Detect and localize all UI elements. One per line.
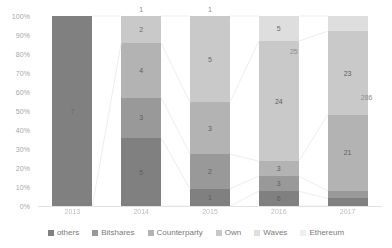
stacked-bar-chart: 100%90%80%70%60%50%40%30%20%10%0% 724351… [0,0,392,248]
bar-segment-label: 23 [344,70,352,77]
bar-segment-label: 3 [208,125,212,132]
y-axis-tick-label: 20% [16,165,30,172]
legend-swatch-icon [48,230,54,236]
legend-label: Bitshares [101,229,134,237]
x-axis-tick-label: 2016 [254,208,304,215]
y-axis-tick-label: 90% [16,32,30,39]
legend-swatch-icon [92,230,98,236]
bar-total-label: 1 [116,6,166,13]
bar-segment[interactable]: 4 [121,43,161,97]
bar-total-label: 1 [185,6,235,13]
bar-segment-label: 2 [208,168,212,175]
y-axis-tick-label: 50% [16,108,30,115]
bar-segment[interactable]: 2 [190,154,230,189]
y-axis-tick-label: 70% [16,70,30,77]
bar-segment-label: 5 [277,25,281,32]
bar-segment-label: 21 [344,149,352,156]
bar-segment[interactable]: 2 [121,16,161,43]
bar-segment-label: 5 [139,169,143,176]
y-axis-tick-label: 80% [16,51,30,58]
x-axis-tick-label: 2013 [47,208,97,215]
bar-segment-label: 3 [277,165,281,172]
bar-column[interactable]: 5321 [190,16,230,206]
legend-item[interactable]: Ethereum [300,229,344,237]
x-axis-tick-label: 2015 [185,208,235,215]
legend-swatch-icon [300,230,306,236]
plot-area: 72435153211524336252321286 [38,16,382,206]
x-axis-tick-label: 2017 [323,208,373,215]
bar-column[interactable]: 524336 [259,16,299,206]
bar-segment-label: 4 [139,67,143,74]
bar-segment[interactable] [328,198,368,206]
bar-segment[interactable]: 3 [121,98,161,139]
x-axis: 20132014201520162017 [38,208,382,220]
bar-segment[interactable]: 23 [328,31,368,115]
bar-total-label: 286 [342,94,392,101]
bar-segment-label: 3 [139,114,143,121]
legend-label: others [57,229,79,237]
bar-segment[interactable]: 1 [190,189,230,206]
y-axis-tick-label: 40% [16,127,30,134]
x-axis-line [38,206,382,207]
y-axis-tick-label: 10% [16,184,30,191]
bar-segment[interactable]: 6 [259,191,299,206]
y-axis-tick-label: 60% [16,89,30,96]
legend-item[interactable]: Own [216,229,241,237]
legend: othersBitsharesCounterpartyOwnWavesEther… [0,226,392,240]
legend-item[interactable]: others [48,229,79,237]
legend-label: Ethereum [309,229,344,237]
bar-segment[interactable]: 21 [328,115,368,191]
bar-segment[interactable]: 24 [259,41,299,161]
legend-swatch-icon [254,230,260,236]
y-axis-tick-label: 30% [16,146,30,153]
bar-segment[interactable]: 5 [121,138,161,206]
bar-segment[interactable]: 7 [52,16,92,206]
legend-label: Counterparty [157,229,203,237]
legend-label: Waves [263,229,287,237]
bar-segment[interactable] [328,16,368,31]
bar-segment-label: 6 [277,195,281,202]
bar-segment[interactable]: 5 [190,16,230,102]
bar-column[interactable]: 7 [52,16,92,206]
y-axis-tick-label: 0% [20,203,30,210]
legend-item[interactable]: Bitshares [92,229,134,237]
y-axis: 100%90%80%70%60%50%40%30%20%10%0% [0,16,34,206]
bar-segment[interactable]: 3 [190,102,230,154]
x-axis-tick-label: 2014 [116,208,166,215]
bar-column[interactable]: 2321 [328,16,368,206]
legend-swatch-icon [148,230,154,236]
legend-swatch-icon [216,230,222,236]
bar-segment-label: 2 [139,26,143,33]
bar-segment[interactable]: 3 [259,176,299,191]
bar-segment[interactable]: 3 [259,161,299,176]
bar-segment-label: 3 [277,180,281,187]
legend-item[interactable]: Counterparty [148,229,203,237]
bar-segment-label: 24 [275,98,283,105]
bar-segment-label: 7 [70,108,74,115]
bar-total-label: 25 [269,48,319,55]
bar-segment[interactable] [328,191,368,199]
bar-segment[interactable]: 5 [259,16,299,41]
legend-item[interactable]: Waves [254,229,287,237]
bar-segment-label: 5 [208,56,212,63]
bar-column[interactable]: 2435 [121,16,161,206]
legend-label: Own [225,229,241,237]
y-axis-tick-label: 100% [12,13,30,20]
bar-segment-label: 1 [208,194,212,201]
